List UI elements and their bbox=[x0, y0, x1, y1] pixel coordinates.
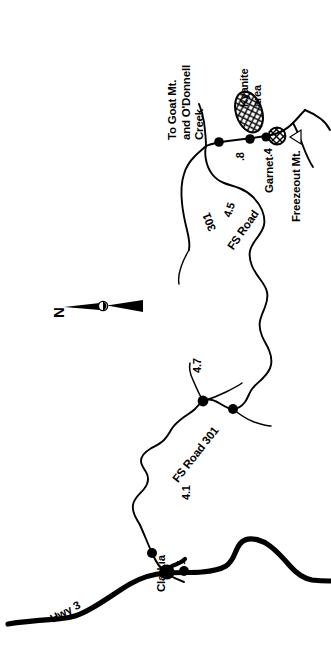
north-arrow-icon bbox=[64, 300, 143, 312]
label-clarkia: Clarkia bbox=[155, 555, 168, 592]
road-east-branch-2 bbox=[305, 110, 330, 130]
map-title-line-2: and O'Donnell bbox=[180, 65, 194, 140]
garnet-area-symbol bbox=[269, 128, 286, 145]
mile-label-1: 1 bbox=[175, 559, 187, 565]
road-spur-45 bbox=[233, 409, 271, 426]
compass-north-label: N bbox=[51, 307, 68, 318]
road-fs301-main bbox=[133, 146, 272, 525]
mile-label-41: 4.1 bbox=[180, 485, 192, 500]
label-garnet: Garnet bbox=[263, 157, 276, 193]
triangle-peak-icon bbox=[290, 130, 301, 144]
label-kyanite-line-1: Kyanite bbox=[238, 69, 251, 107]
road-north-loop bbox=[181, 146, 206, 250]
map-title-line-1: To Goat Mt. bbox=[166, 65, 180, 140]
mile-label-08: .8 bbox=[234, 152, 246, 161]
label-kyanite-line-2: area bbox=[251, 69, 264, 107]
map-title-block: To Goat Mt. and O'Donnell Creek bbox=[166, 65, 207, 140]
road-spur-47 bbox=[203, 383, 242, 401]
label-freezeout-mt: Freezeout Mt. bbox=[290, 150, 303, 222]
junction-dot-08 bbox=[214, 137, 224, 147]
junction-dot-garnet bbox=[261, 132, 270, 141]
creek-stub bbox=[179, 250, 189, 284]
junction-dot-1 bbox=[179, 566, 189, 576]
junction-dot-47 bbox=[198, 396, 209, 407]
sketch-map: To Goat Mt. and O'Donnell Creek Kyanite … bbox=[0, 0, 331, 658]
junction-dot-45 bbox=[228, 404, 238, 414]
mile-label-47: 4.7 bbox=[191, 358, 203, 373]
junction-dot-04 bbox=[245, 134, 255, 144]
mile-label-04: .4 bbox=[262, 148, 274, 157]
map-title-line-3: Creek bbox=[193, 65, 207, 140]
label-kyanite-area: Kyanite area bbox=[238, 69, 264, 107]
